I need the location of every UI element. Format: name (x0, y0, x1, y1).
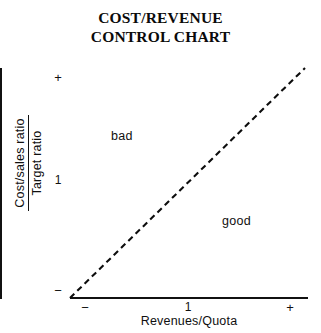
y-axis-line (0, 68, 2, 299)
y-axis-denominator: Target ratio (29, 115, 44, 210)
y-tick-high: + (50, 70, 66, 85)
chart-title: COST/REVENUE CONTROL CHART (0, 8, 321, 46)
y-axis-fraction: Cost/sales ratio Target ratio (13, 115, 44, 210)
region-label-good: good (222, 214, 251, 228)
x-tick-low: − (76, 300, 94, 315)
x-tick-mid: 1 (179, 300, 197, 314)
x-axis-title: Revenues/Quota (70, 314, 308, 328)
y-axis-title: Cost/sales ratio Target ratio (6, 83, 50, 243)
region-label-bad: bad (111, 129, 133, 143)
parity-reference-line (60, 58, 321, 308)
chart-title-line-1: COST/REVENUE (0, 8, 321, 27)
x-tick-high: + (281, 300, 299, 315)
cost-revenue-control-chart: COST/REVENUE CONTROL CHART + 1 − − 1 + C… (0, 0, 321, 333)
y-axis-numerator: Cost/sales ratio (13, 115, 29, 210)
y-tick-low: − (50, 283, 66, 298)
y-tick-mid: 1 (50, 173, 66, 187)
chart-title-line-2: CONTROL CHART (0, 27, 321, 46)
